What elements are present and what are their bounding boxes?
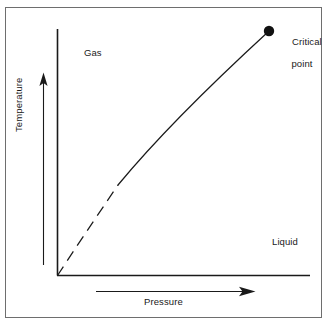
critical-point-label: Critical point <box>281 25 323 91</box>
region-label-gas: Gas <box>84 47 102 58</box>
phase-boundary-curve-dashed <box>58 185 119 276</box>
phase-diagram-figure: Gas Liquid Critical point Pressure Tempe… <box>0 0 334 330</box>
critical-point-label-line1: Critical <box>292 36 322 47</box>
critical-point-label-line2: point <box>281 58 323 69</box>
y-axis-label: Temperature <box>13 78 24 132</box>
region-label-liquid: Liquid <box>272 236 298 247</box>
phase-boundary-curve-solid <box>118 32 269 186</box>
critical-point-marker-icon <box>264 26 274 36</box>
x-axis-label: Pressure <box>144 296 183 307</box>
